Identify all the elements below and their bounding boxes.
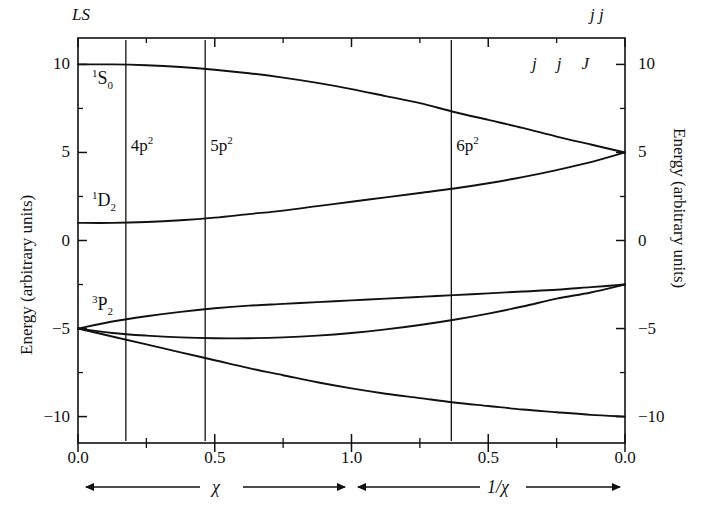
- term-total-j: 2: [108, 305, 114, 317]
- y-tick-label-right: −5: [638, 320, 656, 337]
- x-tick-label-chi: 0.0: [58, 449, 98, 466]
- correlation-curve: [78, 152, 625, 222]
- jj-header-J: J: [581, 54, 589, 73]
- ls-coupling-label: LS: [72, 6, 90, 23]
- x-tick-label-inv-chi: 0.0: [605, 449, 645, 466]
- y-tick-label-right: −10: [638, 408, 665, 425]
- correlation-curve: [78, 285, 625, 329]
- config-base: 6p: [456, 136, 473, 155]
- term-total-j: 2: [111, 201, 117, 213]
- y-tick-label-left: 5: [26, 143, 70, 160]
- term-symbol: D: [98, 190, 111, 210]
- y-tick-label-left: 10: [26, 55, 70, 72]
- jj-column-header: jjJ: [532, 55, 589, 72]
- plot-frame: [78, 38, 625, 443]
- y-tick-label-right: 0: [638, 232, 647, 249]
- term-symbol: S: [98, 68, 108, 88]
- y-tick-label-left: −5: [26, 320, 70, 337]
- element-config-label: 5p2: [210, 135, 233, 154]
- x-tick-label-chi: 0.5: [195, 449, 235, 466]
- term-symbol: P: [98, 294, 108, 314]
- config-superscript: 2: [473, 134, 479, 146]
- config-superscript: 2: [148, 134, 154, 146]
- x-axis-label-inv-chi: 1/χ: [487, 478, 509, 496]
- ls-term-label: 3P2: [92, 294, 113, 317]
- correlation-curve: [78, 329, 625, 417]
- jj-coupling-label: j j: [590, 6, 604, 23]
- correlation-curves: [78, 64, 625, 416]
- x-tick-label-chi: 1.0: [332, 449, 372, 466]
- x-axis-label-chi: χ: [212, 478, 220, 496]
- y-tick-label-left: 0: [26, 232, 70, 249]
- y-tick-label-left: −10: [26, 408, 70, 425]
- ls-term-label: 1D2: [92, 190, 116, 213]
- ls-jj-correlation-figure: LS j j Energy (arbitrary units) Energy (…: [0, 0, 703, 509]
- x-tick-label-inv-chi: 0.5: [468, 449, 508, 466]
- config-base: 5p: [210, 136, 227, 155]
- correlation-curve: [78, 64, 625, 152]
- term-total-j: 0: [108, 79, 114, 91]
- element-config-label: 6p2: [456, 135, 479, 154]
- y-axis-title-right: Energy (arbitrary units): [671, 128, 688, 288]
- element-config-label: 4p2: [131, 135, 154, 154]
- y-tick-label-right: 10: [638, 55, 655, 72]
- plot-frame-rect: [78, 38, 625, 443]
- config-base: 4p: [131, 136, 148, 155]
- y-tick-label-right: 5: [638, 143, 647, 160]
- correlation-curve: [78, 285, 625, 339]
- config-superscript: 2: [227, 134, 233, 146]
- ls-term-label: 1S0: [92, 68, 113, 91]
- axis-ticks: [78, 38, 625, 452]
- jj-header-j1: j: [532, 54, 537, 73]
- jj-header-j2: j: [557, 54, 562, 73]
